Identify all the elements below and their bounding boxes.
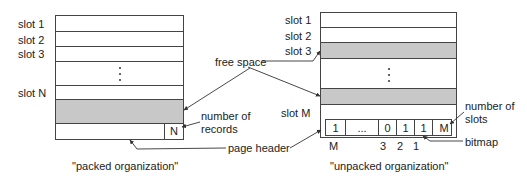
arrow-number-of-slots xyxy=(450,112,464,124)
arrow-free-space-slot3 xyxy=(262,51,320,61)
arrow-free-space-packed xyxy=(184,68,250,110)
arrow-free-space-unpacked xyxy=(248,67,320,96)
arrow-number-of-records xyxy=(182,122,200,127)
arrow-page-header-packed xyxy=(130,140,226,149)
leader-lines xyxy=(0,0,527,183)
arrow-page-header-unpacked xyxy=(290,130,321,148)
arrow-bitmap xyxy=(423,136,463,141)
